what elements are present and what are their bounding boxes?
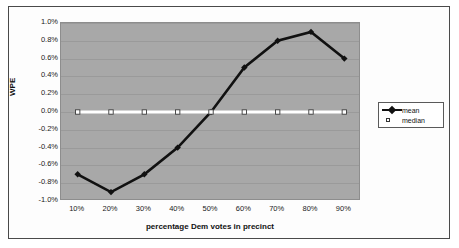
y-axis-tick-label: -1.0% <box>10 196 58 204</box>
y-axis-tick-label: -0.4% <box>10 143 58 151</box>
data-point-median <box>242 110 246 114</box>
data-point-median <box>209 110 213 114</box>
y-axis-tick-label: -0.2% <box>10 125 58 133</box>
legend-entry-median: median <box>382 115 440 125</box>
y-axis-tick-labels: 1.0%0.8%0.6%0.4%0.2%0.0%-0.2%-0.4%-0.6%-… <box>6 22 58 200</box>
y-axis-tick-label: 0.6% <box>10 54 58 62</box>
y-axis-tick-label: -0.8% <box>10 178 58 186</box>
y-axis-tick-label: 0.0% <box>10 107 58 115</box>
x-axis-tick-labels: 10%20%30%40%50%60%70%80%90% <box>60 204 360 216</box>
chart-legend: mean median <box>378 102 444 128</box>
plot-area <box>60 22 360 200</box>
y-axis-tick-label: 0.8% <box>10 36 58 44</box>
x-axis-tick-label: 90% <box>323 204 363 213</box>
y-axis-tick-label: 0.2% <box>10 89 58 97</box>
y-axis-tick-label: -0.6% <box>10 160 58 168</box>
data-point-median <box>175 110 179 114</box>
data-point-median <box>142 110 146 114</box>
y-axis-tick-label: 1.0% <box>10 18 58 26</box>
legend-label-mean: mean <box>402 107 420 114</box>
data-point-median <box>342 110 346 114</box>
data-point-median <box>109 110 113 114</box>
legend-marker-mean-icon <box>382 105 402 115</box>
x-axis-title: percentage Dem votes in precinct <box>60 222 360 231</box>
series-layer <box>61 23 360 200</box>
chart-figure: WPE 1.0%0.8%0.6%0.4%0.2%0.0%-0.2%-0.4%-0… <box>0 0 459 248</box>
y-axis-tick-label: 0.4% <box>10 71 58 79</box>
data-point-median <box>275 110 279 114</box>
legend-label-median: median <box>402 117 425 124</box>
legend-entry-mean: mean <box>382 105 440 115</box>
data-point-median <box>75 110 79 114</box>
data-point-median <box>309 110 313 114</box>
legend-marker-median-icon <box>382 115 402 125</box>
